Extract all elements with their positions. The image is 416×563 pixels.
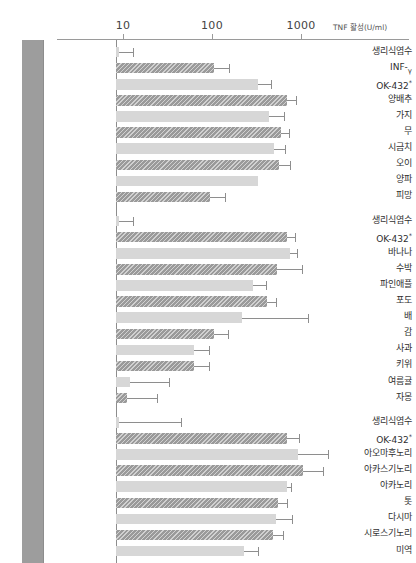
axis-tick-label-100: 100: [201, 19, 223, 32]
error-bar-line: [303, 471, 323, 472]
bar: [116, 393, 127, 404]
chart-x-axis: 101001000TNF 활성(U/ml): [0, 0, 416, 40]
category-label: 파인애플: [380, 279, 412, 289]
group-band-2: [22, 209, 43, 410]
error-bar-cap: [133, 217, 134, 226]
category-label: 무: [404, 126, 412, 136]
category-label: 사과: [396, 343, 412, 353]
bar: [116, 111, 269, 122]
error-bar-cap: [287, 499, 288, 508]
bar: [116, 280, 253, 291]
error-bar-line: [274, 149, 285, 150]
axis-tick-mark-1000: [301, 34, 302, 40]
group-label-과일: 과일: [0, 299, 21, 321]
error-bar-line: [279, 165, 290, 166]
bar: [116, 264, 277, 275]
error-bar-cap: [290, 161, 291, 170]
error-bar-cap: [296, 96, 297, 105]
category-label: 톳: [404, 496, 412, 506]
error-bar-cap: [323, 467, 324, 476]
error-bar-line: [273, 535, 283, 536]
error-bar-line: [267, 302, 276, 303]
bar: [116, 312, 242, 323]
error-bar-cap: [209, 346, 210, 355]
bar: [116, 465, 303, 476]
bar: [116, 296, 267, 307]
error-bar-cap: [291, 483, 292, 492]
error-bar-cap: [276, 298, 277, 307]
category-label: 생리식염수: [372, 416, 412, 426]
error-bar-cap: [308, 314, 309, 323]
bar: [116, 95, 287, 106]
bar: [116, 127, 281, 138]
category-label: 오이: [396, 158, 412, 168]
error-bar-cap: [295, 233, 296, 242]
error-bar-cap: [228, 330, 229, 339]
error-bar-cap: [284, 112, 285, 121]
bar: [116, 63, 214, 74]
error-bar-cap: [133, 48, 134, 57]
category-label: 생리식염수: [372, 46, 412, 56]
category-label: 자몽: [396, 392, 412, 402]
category-label: 생리식염수: [372, 215, 412, 225]
error-bar-cap: [209, 362, 210, 371]
category-label-column-1: [43, 40, 117, 209]
error-bar-line: [244, 551, 258, 552]
bar: [116, 79, 258, 90]
bar: [116, 449, 298, 460]
error-bar-line: [214, 334, 228, 335]
group-label-채소: 채소: [0, 114, 21, 136]
category-label: INF-γ: [390, 62, 412, 76]
category-label-column-3: [43, 410, 117, 563]
category-label: OK-432*: [376, 432, 412, 445]
group-label-해조류: 해조류: [0, 470, 21, 503]
category-label-column-2: [43, 209, 117, 410]
error-bar-line: [119, 422, 181, 423]
axis-tick-mark-10: [123, 34, 124, 40]
error-bar-line: [287, 237, 295, 238]
error-bar-line: [281, 133, 289, 134]
category-label: 여름귤: [388, 376, 412, 386]
error-bar-line: [242, 318, 308, 319]
error-bar-line: [287, 100, 296, 101]
bar: [116, 232, 287, 243]
bar: [116, 329, 214, 340]
bar: [116, 160, 279, 171]
category-label: OK-432*: [376, 78, 412, 91]
bar: [116, 377, 130, 388]
error-bar-line: [298, 454, 328, 455]
error-bar-line: [210, 197, 225, 198]
error-bar-line: [130, 382, 169, 383]
bar: [116, 546, 244, 557]
category-label: 미역: [396, 545, 412, 555]
error-bar-line: [269, 116, 283, 117]
bar: [116, 143, 274, 154]
error-bar-cap: [258, 547, 259, 556]
error-bar-cap: [285, 145, 286, 154]
error-bar-line: [194, 350, 209, 351]
error-bar-line: [277, 269, 302, 270]
category-label: 포도: [396, 295, 412, 305]
error-bar-cap: [283, 531, 284, 540]
bar: [116, 248, 290, 259]
bar: [116, 514, 276, 525]
category-label: 아카노리: [380, 480, 412, 490]
error-bar-line: [287, 438, 299, 439]
axis-caption: TNF 활성(U/ml): [333, 21, 387, 32]
category-label: 다시마: [388, 512, 412, 522]
bar: [116, 192, 210, 203]
category-label: 가지: [396, 110, 412, 120]
error-bar-line: [119, 52, 133, 53]
error-bar-line: [194, 366, 209, 367]
error-bar-cap: [266, 281, 267, 290]
category-label: 양배추: [388, 94, 412, 104]
error-bar-cap: [157, 394, 158, 403]
bar: [116, 481, 287, 492]
bar: [116, 176, 258, 187]
category-label: 시금치: [388, 142, 412, 152]
error-bar-line: [276, 519, 292, 520]
category-label: 양파: [396, 174, 412, 184]
group-band-1: [22, 40, 43, 209]
bar: [116, 361, 194, 372]
